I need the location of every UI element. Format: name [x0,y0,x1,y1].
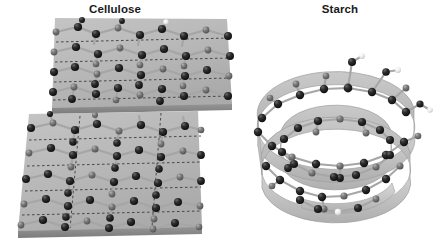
molecular-scene [0,0,435,248]
carbon-atom [296,196,304,204]
carbon-atom [416,100,423,107]
hydroxyl-atom [359,53,365,59]
carbon-atom [154,179,162,187]
carbon-atom [91,80,99,88]
carbon-atom [50,68,58,76]
carbon-atom [86,196,94,204]
oxygen-atom [26,150,33,157]
carbon-atom [132,172,140,180]
carbon-atom [290,160,298,168]
carbon-atom [64,189,72,197]
carbon-atom [27,124,35,132]
panel-title-cellulose: Cellulose [0,3,230,15]
carbon-atom [274,100,282,108]
carbon-atom [71,63,79,71]
oxygen-atom [117,45,124,52]
oxygen-atom [293,81,300,88]
carbon-atom [136,31,144,39]
carbon-atom [79,17,85,23]
carbon-atom [180,92,188,100]
carbon-atom [137,121,145,129]
carbon-atom [130,197,138,205]
carbon-atom [111,164,119,172]
carbon-atom [157,153,165,161]
oxygen-atom [203,27,210,34]
oxygen-atom [336,115,343,122]
oxygen-atom [84,218,91,225]
carbon-atom [158,85,166,93]
carbon-atom [158,25,166,33]
oxygen-atom [181,63,188,70]
carbon-atom [268,142,276,150]
carbon-atom [276,176,284,184]
carbon-atom [171,219,179,227]
carbon-atom [182,52,190,60]
oxygen-atom [68,164,75,171]
carbon-atom [197,177,205,185]
oxygen-atom [180,148,187,155]
carbon-atom [197,151,205,159]
carbon-atom [135,81,143,89]
carbon-atom [113,152,121,160]
carbon-atom [362,186,370,194]
cellulose-panel-graphic [18,17,234,238]
carbon-atom [330,173,338,181]
oxygen-atom [92,112,98,118]
panel-title-starch: Starch [245,3,435,15]
carbon-atom [354,204,362,212]
oxygen-atom [109,191,116,198]
oxygen-atom [93,61,100,68]
carbon-atom [92,90,100,98]
carbon-atom [106,214,114,222]
oxygen-atom [50,120,57,127]
oxygen-atom [340,192,347,199]
carbon-atom [314,205,322,213]
carbon-atom [203,66,211,74]
cellulose-upper-sheet [49,17,234,114]
carbon-atom [110,178,118,186]
hydroxyl-atom [335,209,341,215]
oxygen-atom [197,203,204,210]
oxygen-atom [137,62,144,69]
oxygen-atom [151,216,158,223]
carbon-atom [92,30,100,38]
carbon-atom [94,50,102,58]
oxygen-atom [288,153,295,160]
carbon-atom [352,171,360,179]
carbon-atom [115,64,123,72]
carbon-atom [44,170,52,178]
oxygen-atom [196,224,203,231]
oxygen-atom [336,162,343,169]
carbon-atom [72,43,80,51]
carbon-atom [61,223,69,231]
carbon-atom [114,84,122,92]
oxygen-atom [323,73,330,80]
oxygen-atom [397,163,404,170]
carbon-atom [226,52,234,60]
oxygen-atom [198,127,205,134]
carbon-atom [254,128,262,136]
oxygen-atom [363,130,370,137]
carbon-atom [159,128,167,136]
carbon-atom [318,193,326,201]
oxygen-atom [89,172,96,179]
oxygen-atom [113,97,120,104]
carbon-atom [382,175,390,183]
hydroxyl-atom [163,19,168,24]
oxygen-atom [18,222,25,229]
carbon-atom [113,139,121,147]
oxygen-atom [150,226,157,233]
carbon-atom [135,146,143,154]
carbon-atom [160,45,168,53]
oxygen-atom [92,146,99,153]
carbon-atom [368,88,376,96]
oxygen-atom [373,164,380,171]
carbon-atom [42,195,50,203]
carbon-atom [62,213,70,221]
oxygen-atom [267,95,274,102]
oxygen-atom [180,83,187,90]
carbon-atom [400,138,408,146]
carbon-atom [344,84,353,93]
carbon-atom [312,160,320,168]
carbon-atom [376,126,384,134]
